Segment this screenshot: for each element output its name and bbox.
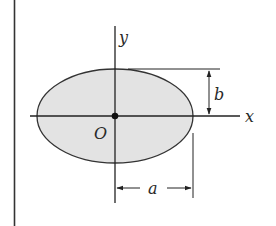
a-label: a — [148, 179, 158, 198]
ellipse-diagram: y x O b a — [0, 0, 276, 226]
b-label: b — [214, 85, 224, 104]
origin-point — [112, 113, 119, 120]
origin-label: O — [94, 124, 107, 143]
y-axis-label: y — [118, 28, 129, 47]
x-axis-label: x — [245, 107, 254, 126]
